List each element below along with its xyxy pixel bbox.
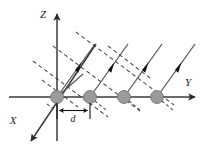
scatterer-circle-2 [84,91,97,104]
axis-group [9,14,195,141]
diagram-canvas: Z Y X [0,0,205,151]
y-axis-label: Y [185,76,193,88]
scatterer-circle-4 [151,91,164,104]
dimension-label: d [71,113,77,124]
wavefront-group [33,32,174,117]
scatterer-circle-3 [118,91,131,104]
x-axis-label: X [9,114,18,126]
wavefront-line-5 [108,46,150,78]
z-axis-label: Z [40,8,47,20]
wavefront-stub-3 [162,101,173,110]
scatterer-circle-1 [51,91,64,104]
wavefront-stub-2 [129,101,140,110]
wavefront-line-1 [33,61,108,117]
diffraction-grating-diagram: Z Y X [0,0,205,151]
